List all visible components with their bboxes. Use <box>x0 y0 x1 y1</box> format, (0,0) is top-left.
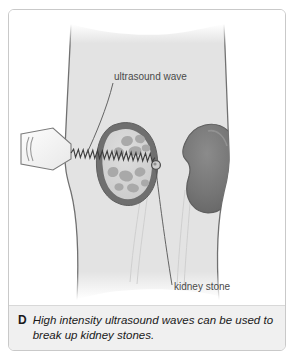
caption-letter: D <box>18 313 27 328</box>
kidney-right <box>183 124 240 213</box>
ultrasound-transducer-icon <box>21 128 71 170</box>
figure-panel: ultrasound wave kidney stone D High inte… <box>8 9 286 351</box>
kidney-stone-icon <box>152 161 161 170</box>
kidney-ultrasound-illustration: ultrasound wave kidney stone <box>9 10 285 305</box>
kidney-left <box>96 123 157 206</box>
kidney-right-body <box>183 124 240 213</box>
figure-caption: D High intensity ultrasound waves can be… <box>9 305 285 350</box>
label-kidney-stone: kidney stone <box>174 281 231 292</box>
label-ultrasound-wave: ultrasound wave <box>114 71 187 82</box>
caption-text: High intensity ultrasound waves can be u… <box>33 313 275 343</box>
